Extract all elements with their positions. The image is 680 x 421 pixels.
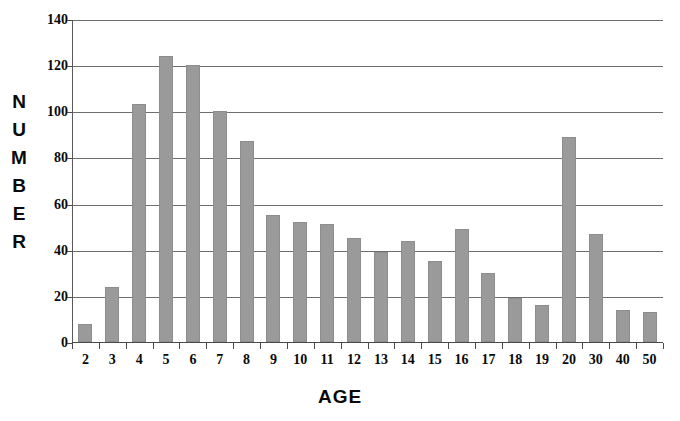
bar bbox=[401, 241, 415, 343]
x-axis-tick-mark bbox=[556, 343, 557, 349]
x-axis-tick-mark bbox=[153, 343, 154, 349]
x-axis-tick-mark bbox=[126, 343, 127, 349]
y-axis-tick-label: 40 bbox=[22, 243, 68, 259]
bar bbox=[132, 104, 146, 342]
bar-chart: N U M B E R 020406080100120140 234567891… bbox=[0, 0, 680, 421]
x-axis-tick-mark bbox=[368, 343, 369, 349]
bar bbox=[159, 56, 173, 342]
bar bbox=[320, 224, 334, 342]
x-axis-tick-mark bbox=[394, 343, 395, 349]
x-axis-tick-mark bbox=[341, 343, 342, 349]
bar bbox=[616, 310, 630, 342]
y-axis-tick-label: 140 bbox=[22, 12, 68, 28]
bar bbox=[78, 324, 92, 342]
x-axis-tick-mark bbox=[99, 343, 100, 349]
x-axis-tick-mark bbox=[582, 343, 583, 349]
x-axis-tick-mark bbox=[636, 343, 637, 349]
y-axis-tick-mark bbox=[67, 158, 72, 159]
y-axis-tick-label: 100 bbox=[22, 104, 68, 120]
x-axis-tick-mark bbox=[179, 343, 180, 349]
bar bbox=[643, 312, 657, 342]
bar bbox=[105, 287, 119, 342]
bar bbox=[347, 238, 361, 342]
x-axis-tick-mark bbox=[502, 343, 503, 349]
bar bbox=[266, 215, 280, 342]
y-axis-tick-mark bbox=[67, 20, 72, 21]
bar bbox=[535, 305, 549, 342]
x-axis-tick-mark bbox=[448, 343, 449, 349]
x-axis-tick-mark bbox=[206, 343, 207, 349]
y-axis-tick-label: 0 bbox=[22, 335, 68, 351]
bar bbox=[589, 234, 603, 342]
x-axis-tick-mark bbox=[475, 343, 476, 349]
x-axis-tick-mark bbox=[233, 343, 234, 349]
x-axis-tick-mark bbox=[663, 343, 664, 349]
bar bbox=[481, 273, 495, 342]
y-axis-tick-label: 20 bbox=[22, 289, 68, 305]
y-axis-tick-label: 120 bbox=[22, 58, 68, 74]
bar bbox=[240, 141, 254, 342]
y-axis-tick-label: 60 bbox=[22, 197, 68, 213]
x-axis-tick-mark bbox=[260, 343, 261, 349]
y-axis-tick-mark bbox=[67, 297, 72, 298]
y-axis-tick-mark bbox=[67, 112, 72, 113]
bar bbox=[374, 252, 388, 342]
bar bbox=[213, 111, 227, 342]
x-axis-tick-labels: 234567891011121314151617181920304050 bbox=[72, 352, 663, 374]
y-axis-tick-label: 80 bbox=[22, 150, 68, 166]
x-axis-tick-label: 50 bbox=[630, 352, 670, 368]
x-axis-tick-mark bbox=[529, 343, 530, 349]
bar bbox=[508, 298, 522, 342]
bar bbox=[562, 137, 576, 342]
bar bbox=[186, 65, 200, 342]
x-axis-tick-mark bbox=[72, 343, 73, 349]
y-axis-tick-labels: 020406080100120140 bbox=[22, 0, 68, 421]
x-axis-tick-mark bbox=[287, 343, 288, 349]
gridline bbox=[72, 20, 663, 21]
y-axis-tick-mark bbox=[67, 251, 72, 252]
x-axis-tick-mark bbox=[421, 343, 422, 349]
x-axis-title: AGE bbox=[0, 386, 680, 408]
y-axis-line bbox=[72, 20, 73, 343]
y-axis-tick-mark bbox=[67, 66, 72, 67]
plot-area bbox=[72, 20, 663, 343]
bar bbox=[428, 261, 442, 342]
y-axis-tick-mark bbox=[67, 205, 72, 206]
x-axis-tick-mark bbox=[314, 343, 315, 349]
bar bbox=[293, 222, 307, 342]
bar bbox=[455, 229, 469, 342]
x-axis-tick-mark bbox=[609, 343, 610, 349]
